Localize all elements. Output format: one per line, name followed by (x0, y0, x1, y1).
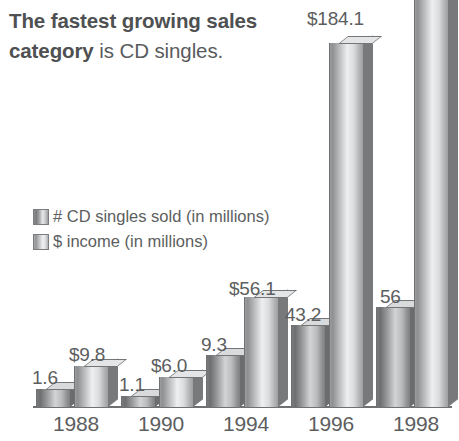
bar-1998-singles (376, 307, 410, 407)
bar-1988-income (74, 366, 108, 407)
bar-value-label: 1.1 (119, 374, 145, 396)
bar-value-label: $184.1 (307, 8, 364, 30)
bar-1990-income (159, 377, 193, 407)
bar-chart-plot: 1.6$9.81.1$6.09.3$56.143.2$184.156198819… (0, 0, 459, 441)
bar-value-label: 9.3 (201, 334, 227, 356)
x-axis-tick-label: 1988 (33, 412, 119, 436)
bar-1998-income (414, 0, 448, 407)
bar-value-label: $56.1 (229, 278, 276, 300)
bar-value-label: $6.0 (151, 355, 187, 377)
bar-front-face (291, 325, 325, 407)
bar-front-face (244, 297, 278, 407)
bar-front-face (121, 396, 155, 407)
bar-1994-singles (206, 355, 240, 407)
bar-1996-singles (291, 325, 325, 407)
bar-front-face (74, 366, 108, 407)
bar-side-face (363, 35, 373, 407)
bar-1988-singles (36, 389, 70, 407)
bar-front-face (376, 307, 410, 407)
bar-top-face (338, 36, 382, 44)
x-axis-tick-label: 1994 (203, 412, 289, 436)
bar-front-face (159, 377, 193, 407)
bar-1996-income (329, 43, 363, 407)
x-axis-tick-label: 1990 (118, 412, 204, 436)
bar-value-label: 1.6 (32, 367, 58, 389)
bar-value-label: $9.8 (69, 344, 105, 366)
bar-value-label: 56 (380, 286, 401, 308)
bar-1994-income (244, 297, 278, 407)
bar-value-label: 43.2 (285, 304, 321, 326)
bar-front-face (206, 355, 240, 407)
x-axis-tick-label: 1996 (288, 412, 374, 436)
bar-1990-singles (121, 396, 155, 407)
bar-front-face (414, 0, 448, 407)
bar-side-face (448, 0, 458, 407)
x-axis-tick-label: 1998 (373, 412, 459, 436)
bar-front-face (36, 389, 70, 407)
bar-front-face (329, 43, 363, 407)
